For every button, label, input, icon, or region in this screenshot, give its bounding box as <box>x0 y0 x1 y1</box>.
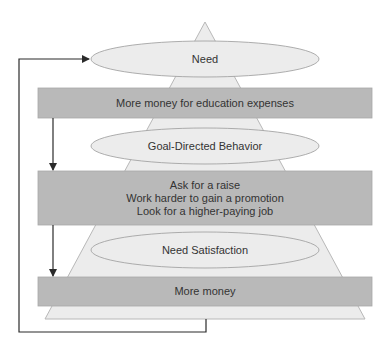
action-work-harder: Work harder to gain a promotion <box>126 192 284 205</box>
label-need-satisfaction: Need Satisfaction <box>91 240 319 260</box>
goal-directed-behavior-text: Goal-Directed Behavior <box>148 140 262 153</box>
label-need: Need <box>91 49 319 69</box>
label-goal-directed-behavior: Goal-Directed Behavior <box>91 136 319 156</box>
action-ask-raise: Ask for a raise <box>170 179 240 192</box>
action-higher-paying-job: Look for a higher-paying job <box>137 205 273 218</box>
label-education-expenses: More money for education expenses <box>38 88 372 118</box>
label-actions: Ask for a raise Work harder to gain a pr… <box>38 171 372 225</box>
need-text: Need <box>192 53 218 66</box>
need-satisfaction-text: Need Satisfaction <box>162 244 248 257</box>
label-more-money: More money <box>38 277 372 306</box>
education-expenses-text: More money for education expenses <box>116 97 294 110</box>
more-money-text: More money <box>174 285 235 298</box>
